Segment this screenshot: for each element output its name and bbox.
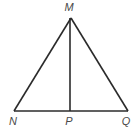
vertex-label-q: Q — [122, 115, 131, 127]
segment-mn — [14, 18, 71, 111]
vertex-label-n: N — [9, 115, 17, 127]
vertex-label-p: P — [65, 115, 73, 127]
geometry-diagram: M N P Q — [0, 0, 139, 132]
segment-mq — [71, 18, 128, 111]
triangle-figure: M N P Q — [0, 0, 139, 132]
vertex-label-m: M — [64, 1, 74, 13]
